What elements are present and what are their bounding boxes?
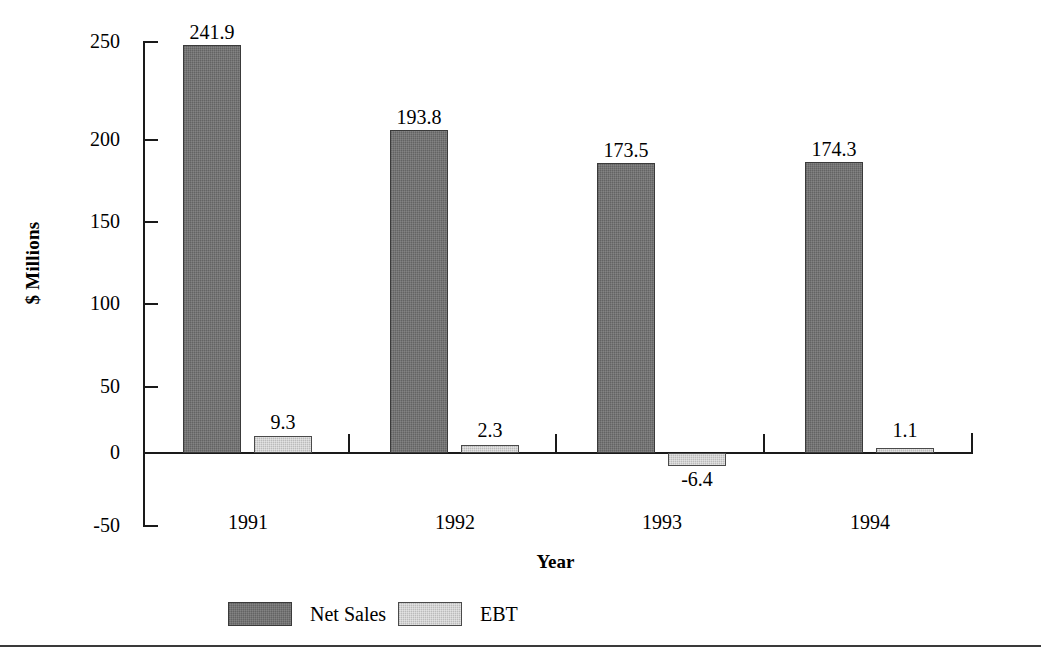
bottom-divider (0, 645, 1041, 647)
bar-label-net-sales-1994: 174.3 (794, 138, 874, 160)
y-tick-label-100: 100 (30, 293, 120, 313)
y-tick-label-50: 50 (30, 376, 120, 396)
legend-swatch-net-sales (228, 602, 292, 626)
bar-net-sales-1994[interactable] (805, 162, 863, 453)
y-tick-150 (143, 221, 158, 223)
y-tick-label-150: 150 (30, 211, 120, 231)
x-category-label-1991: 1991 (208, 511, 288, 533)
bar-label-ebt-1992: 2.3 (450, 419, 530, 441)
x-category-label-1994: 1994 (830, 511, 910, 533)
bar-chart: $ Millions 250 200 150 100 50 0 -50 241.… (0, 0, 1041, 656)
y-tick-50 (143, 386, 158, 388)
legend-label-net-sales: Net Sales (310, 603, 386, 625)
legend-label-ebt: EBT (480, 603, 518, 625)
bar-label-ebt-1993: -6.4 (657, 468, 737, 490)
bar-ebt-1994[interactable] (876, 448, 934, 453)
y-tick-minus-50 (143, 525, 158, 527)
bar-ebt-1991[interactable] (254, 436, 312, 453)
x-axis-title-text: Year (467, 551, 575, 572)
bar-label-ebt-1991: 9.3 (243, 411, 323, 433)
x-tick-separator-3 (763, 434, 765, 452)
x-tick-separator-1 (348, 434, 350, 452)
y-tick-200 (143, 139, 158, 141)
bar-net-sales-1991[interactable] (183, 45, 241, 453)
y-tick-250 (143, 41, 158, 43)
bar-label-net-sales-1992: 193.8 (379, 106, 459, 128)
y-tick-label-minus-50: -50 (30, 515, 120, 535)
legend-item-net-sales[interactable]: Net Sales (228, 600, 386, 628)
x-category-label-1993: 1993 (622, 511, 702, 533)
legend-item-ebt[interactable]: EBT (398, 600, 518, 628)
y-tick-label-200: 200 (30, 129, 120, 149)
bar-net-sales-1992[interactable] (390, 130, 448, 453)
x-axis-title: Year (0, 551, 1041, 573)
x-category-label-1992: 1992 (415, 511, 495, 533)
x-tick-separator-2 (555, 434, 557, 452)
bar-label-ebt-1994: 1.1 (865, 419, 945, 441)
chart-legend: Net Sales EBT (0, 600, 1041, 630)
bar-label-net-sales-1991: 241.9 (172, 21, 252, 43)
y-tick-label-250: 250 (30, 31, 120, 51)
y-tick-100 (143, 303, 158, 305)
bar-label-net-sales-1993: 173.5 (586, 139, 666, 161)
bar-net-sales-1993[interactable] (597, 163, 655, 453)
y-tick-label-0: 0 (30, 442, 120, 462)
bar-ebt-1993[interactable] (668, 453, 726, 466)
bar-ebt-1992[interactable] (461, 445, 519, 453)
legend-swatch-ebt (398, 602, 462, 626)
x-axis-end-cap (971, 433, 973, 453)
